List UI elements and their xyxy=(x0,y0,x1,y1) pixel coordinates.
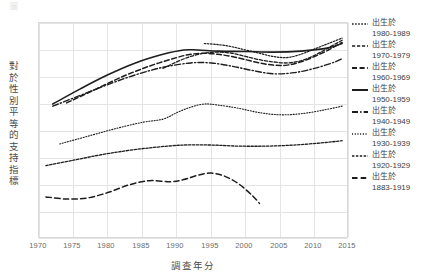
legend-line-swatch xyxy=(352,18,368,30)
legend-label-years: 1930-1939 xyxy=(372,139,410,150)
x-tick-label: 2010 xyxy=(304,241,322,250)
x-axis-label: 調查年分 xyxy=(38,258,348,272)
legend-label: 出生於1950-1959 xyxy=(372,84,410,105)
legend-label-prefix: 出生於 xyxy=(372,18,410,29)
legend-line-swatch xyxy=(352,150,368,162)
legend-label-years: 1960-1969 xyxy=(372,73,410,84)
legend-label: 出生於1970-1979 xyxy=(372,40,410,61)
legend-label-years: 1950-1959 xyxy=(372,95,410,106)
legend-line-swatch xyxy=(352,106,368,118)
legend-label-years: 1940-1949 xyxy=(372,117,410,128)
legend-line-swatch xyxy=(352,62,368,74)
legend-label-prefix: 出生於 xyxy=(372,128,410,139)
x-tick-label: 1975 xyxy=(63,241,81,250)
x-tick-label: 2005 xyxy=(270,241,288,250)
legend-item[interactable]: 出生於1950-1959 xyxy=(352,84,431,105)
legend-label: 出生於1883-1919 xyxy=(372,172,410,193)
legend-item[interactable]: 出生於1883-1919 xyxy=(352,172,431,193)
x-tick-label: 1970 xyxy=(29,241,47,250)
series-line xyxy=(60,104,342,144)
legend-label-years: 1970-1979 xyxy=(372,51,410,62)
x-tick-label: 1980 xyxy=(97,241,115,250)
series-lines xyxy=(39,23,349,239)
legend-item[interactable]: 出生於1960-1969 xyxy=(352,62,431,83)
legend-label: 出生於1960-1969 xyxy=(372,62,410,83)
x-tick-label: 2015 xyxy=(338,241,356,250)
series-line xyxy=(46,173,260,203)
chart-figure: 圖 對於性別平等的支持指標 1970 1975 1980 1985 1990 1… xyxy=(0,0,431,280)
x-tick-label: 2000 xyxy=(235,241,253,250)
legend-line-swatch xyxy=(352,172,368,184)
legend-label: 出生於1940-1949 xyxy=(372,106,410,127)
legend-label-prefix: 出生於 xyxy=(372,84,410,95)
legend-item[interactable]: 出生於1980-1989 xyxy=(352,18,431,39)
legend-item[interactable]: 出生於1940-1949 xyxy=(352,106,431,127)
plot-area xyxy=(38,22,348,238)
legend-line-swatch xyxy=(352,84,368,96)
chart-legend: 出生於1980-1989出生於1970-1979出生於1960-1969出生於1… xyxy=(352,18,431,194)
series-line xyxy=(46,141,342,166)
legend-label-years: 1980-1989 xyxy=(372,29,410,40)
legend-label: 出生於1930-1939 xyxy=(372,128,410,149)
legend-label: 出生於1980-1989 xyxy=(372,18,410,39)
x-tick-label: 1990 xyxy=(166,241,184,250)
series-line xyxy=(53,44,342,104)
legend-line-swatch xyxy=(352,128,368,140)
series-line xyxy=(53,59,342,107)
legend-label-years: 1920-1929 xyxy=(372,161,410,172)
header-artifact: 圖 xyxy=(10,0,18,11)
legend-item[interactable]: 出生於1920-1929 xyxy=(352,150,431,171)
legend-label-prefix: 出生於 xyxy=(372,172,410,183)
legend-label-prefix: 出生於 xyxy=(372,62,410,73)
legend-item[interactable]: 出生於1930-1939 xyxy=(352,128,431,149)
legend-label-prefix: 出生於 xyxy=(372,40,410,51)
legend-label-years: 1883-1919 xyxy=(372,183,410,194)
x-tick-label: 1985 xyxy=(132,241,150,250)
y-axis-label: 對於性別平等的支持指標 xyxy=(6,60,22,187)
legend-label: 出生於1920-1929 xyxy=(372,150,410,171)
legend-label-prefix: 出生於 xyxy=(372,150,410,161)
legend-line-swatch xyxy=(352,40,368,52)
x-tick-label: 1995 xyxy=(201,241,219,250)
legend-label-prefix: 出生於 xyxy=(372,106,410,117)
legend-item[interactable]: 出生於1970-1979 xyxy=(352,40,431,61)
cropped-header-strip: 圖 xyxy=(0,0,431,12)
